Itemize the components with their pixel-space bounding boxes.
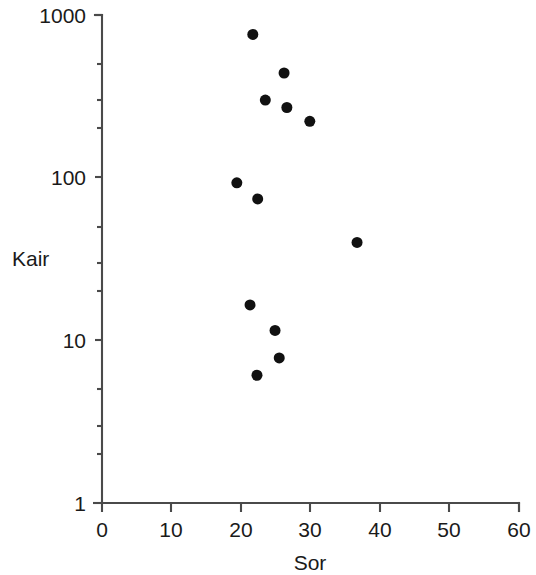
y-tick-label-1000: 1000 xyxy=(39,4,86,27)
x-tick-label-60: 60 xyxy=(507,518,530,541)
data-point xyxy=(245,299,256,310)
x-tick-label-10: 10 xyxy=(159,518,182,541)
scatter-plot-figure: 1000 100 10 1 0 10 20 30 40 50 60 Kair S… xyxy=(0,0,536,575)
x-axis-title: Sor xyxy=(294,551,327,574)
x-tick-label-50: 50 xyxy=(437,518,460,541)
data-point xyxy=(252,193,263,204)
y-axis-title: Kair xyxy=(12,247,49,270)
x-tick-label-40: 40 xyxy=(368,518,391,541)
plot-canvas: 1000 100 10 1 0 10 20 30 40 50 60 Kair S… xyxy=(0,0,536,575)
x-tick-label-0: 0 xyxy=(96,518,108,541)
data-point xyxy=(260,95,271,106)
y-tick-label-1: 1 xyxy=(74,492,86,515)
data-point-series xyxy=(231,29,362,381)
data-point xyxy=(304,116,315,127)
data-point xyxy=(270,325,281,336)
x-major-ticks xyxy=(102,503,519,512)
y-tick-label-10: 10 xyxy=(63,329,86,352)
data-point xyxy=(247,29,258,40)
y-major-ticks xyxy=(93,15,102,503)
data-point xyxy=(274,352,285,363)
x-tick-label-20: 20 xyxy=(229,518,252,541)
y-tick-label-100: 100 xyxy=(51,166,86,189)
axis-lines xyxy=(95,15,519,511)
data-point xyxy=(231,177,242,188)
data-point xyxy=(352,237,363,248)
data-point xyxy=(281,102,292,113)
data-point xyxy=(251,370,262,381)
data-point xyxy=(279,68,290,79)
x-tick-label-30: 30 xyxy=(298,518,321,541)
x-tick-labels: 0 10 20 30 40 50 60 xyxy=(96,518,531,541)
